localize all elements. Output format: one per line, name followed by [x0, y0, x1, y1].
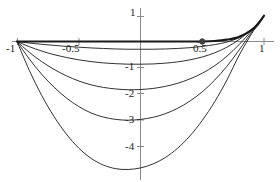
ytick-label--3: -3 — [125, 114, 134, 125]
xtick-label--1: -1 — [6, 43, 15, 54]
xtick-label-1: 1 — [259, 43, 265, 54]
ytick-label--1: -1 — [125, 61, 134, 72]
plot-figure: -1 -0.5 0.5 1 1 -1 -2 -3 -4 — [0, 0, 280, 182]
ytick-label-1: 1 — [130, 7, 136, 18]
plot-canvas — [0, 0, 280, 182]
ytick-label--2: -2 — [125, 88, 134, 99]
xtick-label-0.5: 0.5 — [193, 43, 207, 54]
ytick-label--4: -4 — [125, 141, 134, 152]
xtick-label--0.5: -0.5 — [62, 43, 79, 54]
